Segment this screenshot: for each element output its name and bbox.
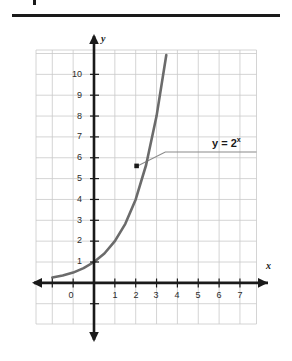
y-tick-label-5: 5: [60, 174, 82, 183]
x-axis-label: x: [266, 260, 271, 271]
y-tick-label-10: 10: [60, 70, 82, 79]
y-axis-label: y: [101, 33, 105, 44]
curve-point-marker: [134, 164, 139, 169]
x-tick-label-2: 2: [128, 291, 144, 300]
figure-root: 10 9 8 7 6 5 4 3 2 1 0 1 2 3 4 5 6 7 y x…: [0, 0, 292, 361]
x-tick-label-5: 5: [190, 291, 206, 300]
equation-label-exponent: x: [237, 136, 241, 143]
exponential-graph: 10 9 8 7 6 5 4 3 2 1 0 1 2 3 4 5 6 7 y x…: [0, 0, 292, 361]
x-tick-label-4: 4: [169, 291, 185, 300]
y-tick-label-3: 3: [60, 216, 82, 225]
x-tick-label-6: 6: [211, 291, 227, 300]
equation-label: y = 2x: [212, 136, 241, 149]
y-tick-label-9: 9: [60, 91, 82, 100]
x-tick-label-7: 7: [232, 291, 248, 300]
x-tick-label-1: 1: [107, 291, 123, 300]
y-tick-label-7: 7: [60, 132, 82, 141]
x-tick-label-0: 0: [63, 291, 79, 300]
helper-line: [137, 152, 257, 166]
y-tick-label-1: 1: [60, 257, 82, 266]
x-axis: [32, 278, 268, 288]
y-tick-label-2: 2: [60, 236, 82, 245]
graph-svg: [0, 0, 292, 361]
y-tick-label-6: 6: [60, 153, 82, 162]
y-axis: [89, 34, 99, 342]
y-tick-label-4: 4: [60, 195, 82, 204]
equation-label-base: y = 2: [212, 137, 237, 149]
y-tick-label-8: 8: [60, 112, 82, 121]
x-tick-label-3: 3: [148, 291, 164, 300]
